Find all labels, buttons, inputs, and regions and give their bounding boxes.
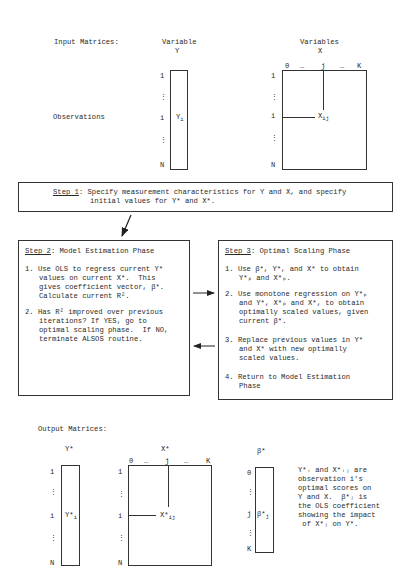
x-star-header: X* xyxy=(161,445,170,454)
y-star-row-label: ⋮ xyxy=(50,488,57,497)
note-line: the OLS coefficient xyxy=(298,502,380,511)
y-star-row-label: ⋮ xyxy=(50,534,57,543)
y-star-cell: Y*i xyxy=(65,511,77,522)
output-note: Y*ᵢ and X*ᵢⱼ are observation i's optimal… xyxy=(298,466,380,529)
note-line: showing the impact xyxy=(298,511,380,520)
output-matrices-label: Output Matrices: xyxy=(38,425,107,434)
note-line: Y*ᵢ and X*ᵢⱼ are xyxy=(298,466,380,475)
beta-star-row-label: ⋮ xyxy=(247,529,254,538)
x-star-row-label: ⋮ xyxy=(118,534,125,543)
beta-star-row-label: j xyxy=(247,510,251,519)
note-line: Y and X. β*ⱼ is xyxy=(298,493,380,502)
x-star-col-label: 0 xyxy=(129,457,133,466)
x-star-col-label: … xyxy=(184,457,188,466)
y-star-row-label: N xyxy=(50,559,54,568)
x-star-row-label: i xyxy=(118,512,122,521)
beta-star-cell: β*j xyxy=(257,510,269,521)
x-star-col-j-line xyxy=(168,465,169,507)
x-star-row-i-line xyxy=(128,515,156,516)
beta-star-row-label: ⋮ xyxy=(247,488,254,497)
y-star-row-label: i xyxy=(50,512,54,521)
beta-star-header: β* xyxy=(257,447,266,456)
x-star-cell: X*ij xyxy=(160,511,175,522)
y-star-header: Y* xyxy=(65,445,74,454)
note-line: observation i's xyxy=(298,475,380,484)
note-line: of X*ⱼ on Y*. xyxy=(298,520,380,529)
beta-star-row-label: K xyxy=(247,545,251,554)
note-line: optimal scores on xyxy=(298,484,380,493)
y-star-row-label: 1 xyxy=(50,468,54,477)
x-star-col-label: … xyxy=(144,457,148,466)
x-star-row-label: N xyxy=(118,559,122,568)
x-star-row-label: 1 xyxy=(118,468,122,477)
x-star-col-label: K xyxy=(206,457,210,466)
arrow-step1-to-step2 xyxy=(122,215,131,236)
x-star-row-label: ⋮ xyxy=(118,490,125,499)
beta-star-row-label: 0 xyxy=(247,469,251,478)
